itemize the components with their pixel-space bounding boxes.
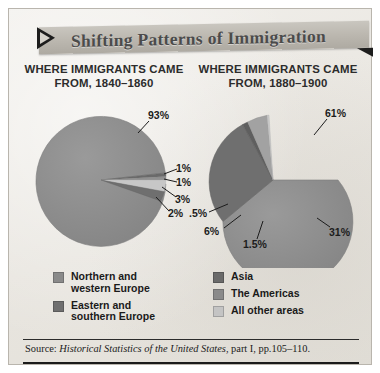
chart-1840-1860-title: Where immigrants came from, 1840–1860 <box>17 63 191 90</box>
chart-1880-1900-title: Where immigrants came from, 1880–1900 <box>191 63 365 90</box>
chart-1880-1900-label-31: 31% <box>329 226 350 238</box>
source-title: Historical Statistics of the United Stat… <box>59 343 226 354</box>
legend-label-line2: western Europe <box>71 283 150 295</box>
legend-swatch-the-americas <box>213 289 224 300</box>
source-prefix: Source: <box>25 343 59 354</box>
chart-1840-1860-label-2: 2% <box>168 207 183 219</box>
chart-1880-1900-label-6: 6% <box>204 225 219 237</box>
legend-swatch-northern-western-europe <box>53 272 64 283</box>
chart-1840-1860-label-1a: 1% <box>176 162 191 174</box>
legend-item-asia: Asia <box>213 271 378 283</box>
chart-1880-1900-label-61: 61% <box>325 107 346 119</box>
legend-right: Asia The Americas All other areas <box>213 271 378 322</box>
legend-item-eastern-southern-europe: Eastern and southern Europe <box>53 300 203 324</box>
legend-item-the-americas: The Americas <box>213 288 378 300</box>
legend-label-line2: southern Europe <box>71 311 155 323</box>
chart-1840-1860-label-1b: 1% <box>176 176 191 188</box>
chart-1840-1860-title-line2: from, 1840–1860 <box>17 77 191 91</box>
legend-label-northern-western-europe: Northern and western Europe <box>71 271 150 295</box>
banner-fold-icon <box>357 48 373 57</box>
source-suffix: , part I, pp.105–110. <box>226 343 310 354</box>
legend-item-all-other-areas: All other areas <box>213 305 378 317</box>
charts-area: Where immigrants came from, 1840–1860 <box>17 63 365 273</box>
chart-1880-1900-title-line2: from, 1880–1900 <box>191 77 365 91</box>
infographic-panel: Shifting Patterns of Immigration Where i… <box>8 8 372 365</box>
legend-label-line1: Northern and <box>71 270 137 282</box>
source-divider-bottom <box>23 362 359 364</box>
legend-label-line1: Eastern and <box>71 299 131 311</box>
legend-area: Northern and western Europe Eastern and … <box>17 271 365 331</box>
chart-1840-1860-label-3: 3% <box>175 193 190 205</box>
chart-1880-1900-pie-box: 61% 31% 1.5% 6% .5% <box>191 93 365 268</box>
source-divider-top <box>23 339 359 340</box>
legend-label-all-other-areas: All other areas <box>231 305 304 317</box>
source-citation: Source: Historical Statistics of the Uni… <box>25 343 359 354</box>
legend-label-asia: Asia <box>231 271 253 283</box>
chart-1880-1900: Where immigrants came from, 1880–1900 <box>191 63 365 273</box>
chart-1880-1900-pie <box>191 93 365 268</box>
legend-swatch-all-other-areas <box>213 306 224 317</box>
chart-1880-1900-label-0-5: .5% <box>189 207 207 219</box>
title-banner: Shifting Patterns of Immigration <box>25 21 373 59</box>
chart-1840-1860-title-line1: Where immigrants came <box>17 63 191 77</box>
infographic-root: Shifting Patterns of Immigration Where i… <box>0 0 380 373</box>
legend-swatch-eastern-southern-europe <box>53 301 64 312</box>
chart-1840-1860-pie-box: 93% 1% 1% 3% 2% <box>17 93 191 268</box>
left-pointing-triangle-inner-icon <box>40 32 50 44</box>
legend-item-northern-western-europe: Northern and western Europe <box>53 271 203 295</box>
chart-1880-1900-title-line1: Where immigrants came <box>191 63 365 77</box>
chart-1840-1860-label-93: 93% <box>148 109 169 121</box>
legend-label-eastern-southern-europe: Eastern and southern Europe <box>71 300 155 324</box>
legend-label-the-americas: The Americas <box>231 288 299 300</box>
chart-1840-1860: Where immigrants came from, 1840–1860 <box>17 63 191 273</box>
chart-1880-1900-label-1-5: 1.5% <box>243 238 267 250</box>
legend-left: Northern and western Europe Eastern and … <box>53 271 203 328</box>
legend-swatch-asia <box>213 272 224 283</box>
